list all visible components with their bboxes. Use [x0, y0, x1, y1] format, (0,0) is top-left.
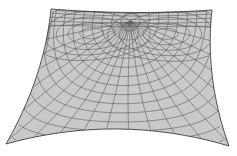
mesh-figure	[0, 0, 237, 156]
membrane-mesh	[0, 0, 237, 156]
